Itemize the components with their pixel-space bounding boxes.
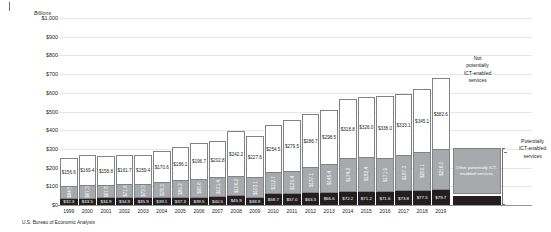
segment-value-label: $242.2: [229, 151, 243, 156]
segment-other-potentially-ict: $174.2: [339, 159, 357, 192]
segment-value-label: $34.9: [100, 199, 111, 204]
bar-column: $196.7$95.6$39.5: [190, 143, 208, 205]
segment-value-label: $73.3: [141, 185, 146, 197]
segment-value-label: $35.9: [138, 199, 149, 204]
segment-ict-services: $71.6: [376, 192, 394, 205]
segment-value-label: $89.2: [178, 183, 183, 195]
segment-value-label: $170.6: [155, 165, 169, 170]
axis-baseline: [58, 205, 532, 206]
bar-column: $382.6$216.0$79.7: [432, 78, 450, 205]
segment-other-potentially-ict: $67.3: [79, 186, 97, 199]
segment-other-potentially-ict: $95.6: [190, 180, 208, 198]
segment-value-label: $338.0: [378, 125, 392, 130]
segment-value-label: $298.5: [322, 135, 336, 140]
segment-value-label: $73.8: [398, 195, 409, 200]
segment-not-potentially-ict: $338.0: [376, 96, 394, 159]
segment-ict-services: $33.5: [79, 199, 97, 205]
segment-value-label: $120.4: [289, 176, 294, 190]
segment-value-label: $156.6: [62, 170, 76, 175]
segment-not-potentially-ict: $382.6: [432, 78, 450, 150]
x-axis-tick-2019: 2019: [428, 208, 454, 214]
segment-value-label: $137.1: [308, 173, 313, 187]
segment-not-potentially-ict: $254.5: [265, 125, 283, 173]
brace-pointer: [504, 152, 507, 153]
y-axis-tick-500: $500: [24, 109, 58, 115]
segment-not-potentially-ict: $318.8: [339, 99, 357, 159]
bar-column: $170.6$78.3$39.1: [153, 151, 171, 205]
segment-ict-services: $79.7: [432, 190, 450, 205]
legend-swatch-ict-services: ICT services: [453, 196, 501, 205]
segment-ict-services: $34.9: [97, 198, 115, 205]
segment-value-label: $67.3: [85, 186, 90, 198]
bar-column: $298.5$145.4$66.6: [320, 110, 338, 205]
segment-value-label: $45.9: [231, 198, 242, 203]
segment-ict-services: $39.1: [153, 198, 171, 205]
segment-value-label: $158.8: [99, 168, 113, 173]
segment-value-label: $58.7: [268, 197, 279, 202]
segment-not-potentially-ict: $186.1: [172, 147, 190, 182]
segment-ict-services: $57.0: [283, 194, 301, 205]
segment-value-label: $71.2: [361, 195, 372, 200]
segment-value-label: $71.6: [379, 195, 390, 200]
bar-column: $318.8$174.2$72.2: [339, 99, 357, 205]
segment-value-label: $37.3: [175, 199, 186, 204]
segment-value-label: $72.2: [342, 195, 353, 200]
bar-column: $326.0$182.4$71.2: [358, 97, 376, 205]
brace-potentially-ict: [502, 148, 505, 205]
bar-column: $161.7$71.6$34.9: [116, 155, 134, 205]
segment-value-label: $169.4: [80, 168, 94, 173]
y-axis: $1,000$900$800$700$600$500$400$300$200$1…: [0, 0, 58, 232]
segment-ict-services: $35.9: [134, 198, 152, 205]
segment-value-label: $279.5: [285, 143, 299, 148]
segment-ict-services: $40.5: [209, 197, 227, 205]
segment-value-label: $254.5: [266, 147, 280, 152]
segment-other-potentially-ict: $73.3: [134, 185, 152, 199]
bar-column: $286.7$137.1$63.3: [302, 114, 320, 205]
segment-value-label: $101.4: [215, 180, 220, 194]
segment-value-label: $39.1: [156, 198, 167, 203]
bar-column: $158.8$67.8$34.9: [97, 156, 115, 205]
segment-value-label: $145.4: [327, 171, 332, 185]
segment-value-label: $66.6: [324, 196, 335, 201]
legend-swatch-other-ict: Other potentially ICT-enabled services: [453, 148, 501, 194]
segment-value-label: $227.6: [248, 155, 262, 160]
segment-not-potentially-ict: $279.5: [283, 120, 301, 172]
segment-not-potentially-ict: $242.2: [227, 131, 245, 176]
segment-value-label: $63.3: [305, 196, 316, 201]
segment-value-label: $216.0: [438, 162, 443, 176]
segment-ict-services: $71.2: [358, 192, 376, 205]
legend-label-ict-services: ICT services: [464, 207, 489, 212]
segment-not-potentially-ict: $202.8: [209, 141, 227, 179]
segment-value-label: $200.1: [420, 164, 425, 178]
bar-column: $227.6$103.1$38.9: [246, 136, 264, 205]
segment-value-label: $38.9: [249, 198, 260, 203]
segment-not-potentially-ict: $298.5: [320, 110, 338, 166]
segment-other-potentially-ict: $71.6: [116, 185, 134, 198]
bar-column: $242.2$106.2$45.9: [227, 131, 245, 205]
segment-value-label: $33.5: [82, 199, 93, 204]
segment-ict-services: $77.5: [413, 191, 431, 205]
segment-value-label: $79.7: [435, 195, 446, 200]
segment-other-potentially-ict: $78.3: [153, 183, 171, 198]
segment-not-potentially-ict: $196.7: [190, 143, 208, 180]
segment-not-potentially-ict: $161.7: [116, 155, 134, 185]
bar-column: $159.4$73.3$35.9: [134, 155, 152, 205]
bar-column: $169.4$67.3$33.5: [79, 155, 97, 206]
segment-value-label: $186.1: [173, 161, 187, 166]
y-axis-tick-900: $900: [24, 34, 58, 40]
bar-column: $156.6$64.5$32.3: [60, 158, 78, 205]
segment-value-label: $106.2: [234, 179, 239, 193]
segment-ict-services: $45.9: [227, 196, 245, 205]
segment-value-label: $39.5: [193, 198, 204, 203]
segment-not-potentially-ict: $169.4: [79, 155, 97, 187]
segment-other-potentially-ict: $103.1: [246, 178, 264, 197]
segment-value-label: $286.7: [304, 138, 318, 143]
segment-value-label: $174.2: [345, 168, 350, 182]
segment-value-label: $77.5: [417, 195, 428, 200]
callout-not-potentially-ict: Not potentially ICT-enabled services: [455, 55, 501, 84]
segment-value-label: $71.6: [122, 186, 127, 198]
segment-value-label: $159.4: [136, 167, 150, 172]
segment-ict-services: $73.8: [395, 191, 413, 205]
segment-value-label: $95.6: [196, 182, 201, 194]
